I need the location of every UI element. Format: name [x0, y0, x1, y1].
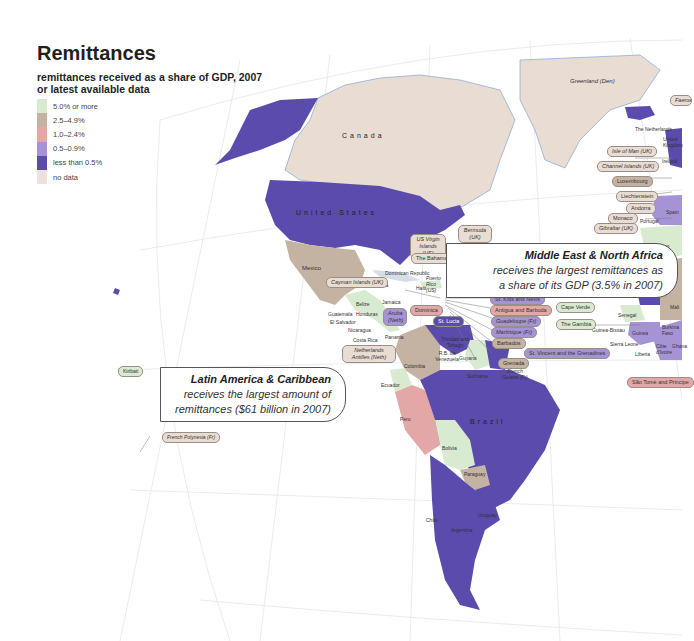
label-canada: Canada — [342, 132, 385, 139]
pill-cayman-islands: Cayman Islands (UK) — [326, 277, 388, 288]
callout-latin-america-caribbean: Latin America & Caribbean receives the l… — [160, 367, 346, 422]
label-guyana: Guyana — [459, 355, 477, 361]
pill-dominica: Dominica — [410, 305, 443, 316]
pill-sao-tome-principe: São Tomé and Principe — [627, 377, 694, 388]
label-spain: Spain — [666, 209, 679, 215]
page-title: Remittances — [37, 42, 156, 65]
label-uruguay: Uruguay — [478, 512, 497, 518]
pill-gibraltar: Gibraltar (UK) — [594, 223, 638, 234]
label-guinea-bissau: Guinea-Bissau — [592, 327, 625, 333]
label-brazil: Brazil — [470, 418, 506, 425]
label-haiti: Haiti — [416, 285, 426, 291]
pill-channel-islands: Channel Islands (UK) — [597, 161, 659, 172]
callout-line: receives the largest amount of — [169, 387, 331, 402]
label-mexico: Mexico — [302, 265, 321, 271]
label-ireland: Ireland — [662, 158, 677, 164]
label-liberia: Liberia — [635, 351, 650, 357]
pill-martinique: Martinique (Fr) — [491, 327, 537, 338]
pill-liechtenstein: Liechtenstein — [616, 191, 658, 202]
label-greenland: Greenland (Den) — [570, 78, 615, 84]
legend-item: 0.5–0.9% — [37, 142, 102, 156]
iceland-shape — [625, 106, 655, 120]
legend-swatch — [37, 99, 47, 113]
label-senegal: Senegal — [618, 312, 636, 318]
label-mali: Mali — [670, 304, 679, 310]
legend-swatch — [37, 113, 47, 127]
pill-cape-verde: Cape Verde — [556, 302, 595, 313]
legend-swatch — [37, 127, 47, 141]
label-french-guiana: French Guiana (Fr) — [500, 368, 530, 380]
pill-luxembourg: Luxembourg — [612, 176, 653, 187]
label-puerto-rico: Puerto Rico (US) — [426, 275, 446, 293]
callout-heading: Latin America & Caribbean — [169, 372, 331, 387]
legend-swatch — [37, 170, 47, 184]
hawaii-shape — [113, 288, 120, 295]
pill-grenada: Grenada — [498, 358, 529, 369]
legend-item: 1.0–2.4% — [37, 127, 102, 141]
label-burkina-faso: Burkina Faso — [662, 324, 682, 336]
callout-line: a share of its GDP (3.5% in 2007) — [455, 278, 663, 293]
label-ecuador: Ecuador — [381, 382, 400, 388]
label-ghana: Ghana — [672, 343, 687, 349]
callout-line: receives the largest remittances as — [455, 263, 663, 278]
legend-item: less than 0.5% — [37, 156, 102, 170]
pill-gambia: The Gambia — [556, 319, 596, 330]
label-paraguay: Paraguay — [464, 471, 485, 477]
pill-guadeloupe: Guadeloupe (Fr) — [491, 316, 541, 327]
label-nicaragua: Nicaragua — [348, 327, 371, 333]
pill-st-lucia: St. Lucia — [433, 316, 464, 327]
label-united-states: United States — [296, 209, 377, 216]
pill-faeroe-islands: Faeroe Islands (Den) — [670, 95, 692, 106]
pill-netherlands-antilles: Netherlands Antilles (Neth) — [342, 345, 396, 363]
legend-swatch — [37, 156, 47, 170]
label-costa-rica: Costa Rica — [353, 337, 377, 343]
label-colombia: Colombia — [404, 363, 425, 369]
pill-aruba: Aruba (Neth) — [383, 308, 407, 326]
legend-item: no data — [37, 170, 102, 184]
label-peru: Peru — [400, 416, 411, 422]
pill-bermuda: Bermuda (UK) — [458, 225, 492, 243]
pill-antigua-barbuda: Antigua and Barbuda — [490, 305, 552, 316]
label-united-kingdom: United Kingdom — [663, 136, 683, 148]
label-belize: Belize — [356, 301, 370, 307]
legend-swatch — [37, 142, 47, 156]
label-panama: Panama — [385, 334, 404, 340]
callout-middle-east-north-africa: Middle East & North Africa receives the … — [446, 243, 678, 298]
legend-item: 5.0% or more — [37, 99, 102, 113]
label-chile: Chile — [426, 517, 437, 523]
map-subtitle: remittances received as a share of GDP, … — [37, 71, 267, 95]
label-el-salvador: El Salvador — [330, 319, 356, 325]
pill-st-vincent-grenadines: St. Vincent and the Grenadines — [524, 348, 610, 359]
pill-kiribati: Kiribati — [118, 366, 143, 377]
callout-line: remittances ($61 billion in 2007) — [169, 402, 331, 417]
label-guatemala: Guatemala — [328, 311, 352, 317]
label-trinidad: Trinidad and Tobago — [440, 336, 470, 348]
legend: 5.0% or more 2.5–4.9% 1.0–2.4% 0.5–0.9% … — [37, 99, 102, 184]
label-honduras: Honduras — [356, 311, 378, 317]
pill-french-polynesia: French Polynesia (Fr) — [162, 432, 220, 443]
legend-item: 2.5–4.9% — [37, 113, 102, 127]
callout-heading: Middle East & North Africa — [455, 248, 663, 263]
label-guinea: Guinea — [632, 330, 648, 336]
pill-isle-of-man: Isle of Man (UK) — [607, 146, 657, 157]
label-jamaica: Jamaica — [382, 299, 401, 305]
label-suriname: Suriname — [467, 373, 488, 379]
label-netherlands: The Netherlands — [635, 126, 672, 132]
label-dominican-republic: Dominican Republic — [385, 270, 425, 276]
label-bolivia: Bolivia — [442, 445, 457, 451]
label-portugal: Portugal — [640, 218, 659, 224]
label-argentina: Argentina — [451, 527, 472, 533]
label-sierra-leone: Sierra Leone — [610, 341, 639, 347]
pill-barbados: Barbados — [492, 338, 526, 349]
